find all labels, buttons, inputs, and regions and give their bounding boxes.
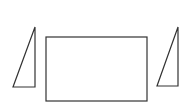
right-triangle xyxy=(157,27,178,86)
left-triangle xyxy=(13,27,35,87)
diagram-canvas xyxy=(0,0,193,110)
center-rectangle xyxy=(46,37,147,101)
